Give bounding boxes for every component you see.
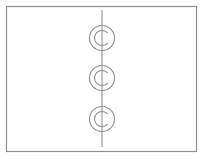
diagram-svg bbox=[0, 0, 206, 159]
diagram-canvas bbox=[0, 0, 206, 159]
